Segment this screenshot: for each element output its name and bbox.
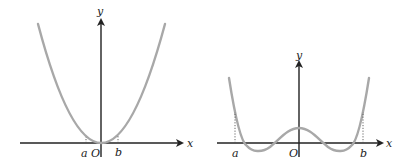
a-label: a [232, 147, 239, 160]
b-label: b [360, 147, 367, 160]
x-axis-label: x [386, 137, 393, 150]
origin-label: O [91, 147, 100, 160]
y-axis-label: y [295, 49, 303, 62]
y-axis-label: y [96, 5, 104, 18]
right-graph: y x a O b [217, 49, 393, 160]
figure-canvas: y x a O b y x a O b [0, 0, 405, 165]
a-label: a [81, 147, 88, 160]
origin-label: O [289, 147, 298, 160]
x-axis-label: x [187, 137, 194, 150]
left-graph: y x a O b [20, 5, 194, 160]
b-label: b [115, 146, 122, 159]
